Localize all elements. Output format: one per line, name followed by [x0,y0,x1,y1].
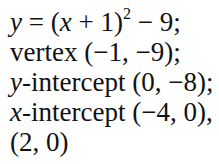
text: + 1) [72,7,123,37]
text: = ( [22,7,60,37]
var-y: y [10,67,22,97]
vertex-line: vertex (−1, −9); [10,37,213,67]
text: -intercept (−4, 0), [22,97,213,127]
text: -intercept (0, −8); [22,67,213,97]
var-x: x [10,97,22,127]
text: (2, 0) [10,127,68,157]
math-answer-text: y = (x + 1)2 − 9; vertex (−1, −9); y-int… [10,7,213,157]
exponent: 2 [123,5,131,22]
x-intercept-2-line: (2, 0) [10,127,213,157]
x-intercept-line: x-intercept (−4, 0), [10,97,213,127]
var-x: x [60,7,72,37]
text: vertex (−1, −9); [10,37,181,67]
equation-line: y = (x + 1)2 − 9; [10,7,213,37]
y-intercept-line: y-intercept (0, −8); [10,67,213,97]
text: − 9; [131,7,181,37]
var-y: y [10,7,22,37]
